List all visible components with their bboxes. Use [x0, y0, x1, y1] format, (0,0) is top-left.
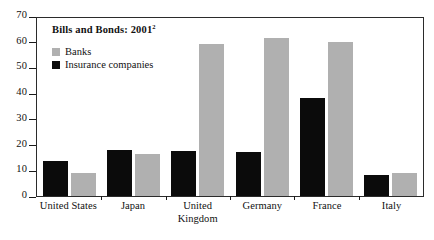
chart-title-footnote-marker: 2 [152, 23, 155, 30]
x-axis-category-label: Italy [360, 200, 424, 238]
bar-group [364, 18, 417, 196]
x-axis-category-label: France [295, 200, 359, 238]
y-axis-tick-label: 40 [3, 86, 27, 97]
y-axis-tick-mark [29, 145, 36, 146]
bar-group [300, 18, 353, 196]
bar-insurance [236, 152, 261, 196]
x-axis-category-label-line: France [295, 200, 359, 213]
bar-insurance [364, 175, 389, 196]
bar-banks [199, 44, 224, 196]
bar-banks [392, 173, 417, 196]
legend-label: Insurance companies [65, 59, 153, 71]
plot-area [36, 17, 424, 197]
y-axis-tick-label: 10 [3, 163, 27, 174]
bar-group [171, 18, 224, 196]
x-axis-category-label-line: Kingdom [166, 213, 230, 226]
bar-group [43, 18, 96, 196]
chart-title-text: Bills and Bonds: 2001 [52, 24, 152, 35]
y-axis-tick-label: 0 [3, 189, 27, 200]
y-axis-tick-mark [29, 94, 36, 95]
bar-banks [264, 38, 289, 196]
chart-legend: BanksInsurance companies [52, 46, 153, 72]
legend-label: Banks [65, 46, 91, 58]
y-axis-tick-mark [29, 197, 36, 198]
y-axis-tick-mark [29, 171, 36, 172]
x-axis-category-label-line: Germany [230, 200, 294, 213]
x-axis-category-label: Japan [101, 200, 165, 238]
y-axis-tick-label: 60 [3, 35, 27, 46]
y-axis-tick-label: 30 [3, 112, 27, 123]
bar-group [107, 18, 160, 196]
legend-entry: Insurance companies [52, 59, 153, 71]
legend-entry: Banks [52, 46, 153, 58]
x-axis-category-label: UnitedKingdom [166, 200, 230, 238]
x-axis-category-label-line: United [166, 200, 230, 213]
bar-insurance [107, 150, 132, 196]
x-axis-category-label-line: Japan [101, 200, 165, 213]
bar-banks [135, 154, 160, 196]
y-axis-tick-label: 50 [3, 60, 27, 71]
x-axis-category-label: United States [36, 200, 100, 238]
x-axis-labels: United StatesJapanUnitedKingdomGermanyFr… [36, 200, 424, 238]
y-axis-tick-mark [29, 17, 36, 18]
y-axis: 706050403020100 [0, 17, 36, 197]
bar-insurance [171, 151, 196, 196]
y-axis-tick-mark [29, 42, 36, 43]
y-axis-tick-mark [29, 68, 36, 69]
bar-banks [71, 173, 96, 196]
legend-swatch [52, 48, 60, 56]
y-axis-tick-label: 70 [3, 9, 27, 20]
x-axis-category-label-line: United States [36, 200, 100, 213]
y-axis-tick-mark [29, 119, 36, 120]
bar-insurance [300, 98, 325, 196]
bar-group [236, 18, 289, 196]
x-axis-category-label: Germany [230, 200, 294, 238]
chart-figure: 706050403020100 United StatesJapanUnited… [0, 0, 434, 240]
bars-layer [37, 18, 423, 196]
bar-insurance [43, 161, 68, 196]
chart-title: Bills and Bonds: 20012 [52, 24, 156, 35]
x-axis-category-label-line: Italy [360, 200, 424, 213]
legend-swatch [52, 61, 60, 69]
bar-banks [328, 42, 353, 196]
y-axis-tick-label: 20 [3, 138, 27, 149]
